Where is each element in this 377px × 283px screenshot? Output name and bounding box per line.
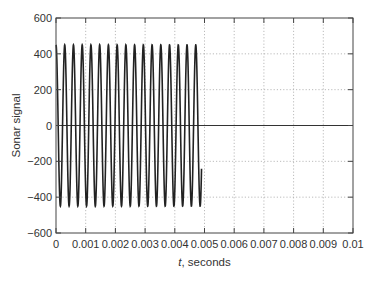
sonar-signal-chart: 00.0010.0020.0030.0040.0050.0060.0070.00… — [0, 0, 377, 283]
y-tick-label: 400 — [34, 48, 52, 60]
x-tick-label: 0.001 — [72, 238, 100, 250]
y-tick-label: 0 — [46, 120, 52, 132]
x-tick-label: 0.009 — [310, 238, 338, 250]
y-tick-label: −200 — [27, 155, 52, 167]
x-tick-labels: 00.0010.0020.0030.0040.0050.0060.0070.00… — [53, 238, 364, 250]
y-tick-label: 600 — [34, 12, 52, 24]
x-tick-label: 0.005 — [191, 238, 219, 250]
x-tick-label: 0.002 — [102, 238, 130, 250]
x-axis-label-unit: , seconds — [181, 256, 230, 268]
y-axis-label: Sonar signal — [10, 94, 22, 158]
x-tick-label: 0.007 — [250, 238, 278, 250]
y-tick-label: −600 — [27, 227, 52, 239]
y-tick-labels: 6004002000−200−400−600 — [27, 12, 52, 239]
x-tick-label: 0.008 — [280, 238, 308, 250]
x-tick-label: 0.01 — [342, 238, 363, 250]
y-tick-label: −400 — [27, 191, 52, 203]
x-tick-label: 0.004 — [161, 238, 189, 250]
x-tick-label: 0.006 — [220, 238, 248, 250]
y-tick-label: 200 — [34, 84, 52, 96]
x-tick-label: 0.003 — [131, 238, 159, 250]
x-axis-label: t, seconds — [178, 256, 231, 268]
x-tick-label: 0 — [53, 238, 59, 250]
